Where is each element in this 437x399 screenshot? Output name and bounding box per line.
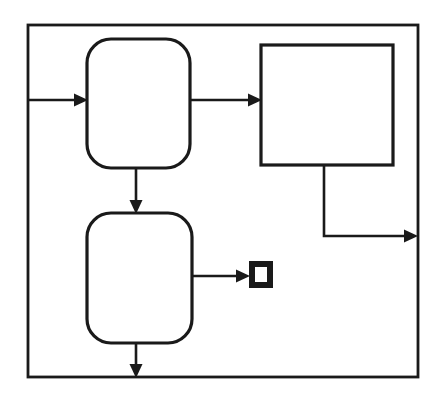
rounded-block-bottom[interactable]: [87, 213, 192, 343]
filled-square-terminator[interactable]: [249, 261, 273, 288]
connector-top-block-to-bottom-block[interactable]: [128, 168, 145, 214]
connector-hit-area[interactable]: [324, 228, 418, 245]
connector-bottom-block-to-output[interactable]: [128, 343, 145, 378]
connector-hit-area[interactable]: [29, 92, 89, 109]
connector-hit-area[interactable]: [192, 268, 250, 285]
diagram-canvas: [0, 0, 437, 399]
connector-line: [324, 165, 408, 236]
connector-right-block-to-output[interactable]: [316, 165, 418, 245]
connector-hit-area[interactable]: [128, 343, 145, 378]
connector-input-to-top-block[interactable]: [29, 92, 89, 109]
connector-top-block-to-right-block[interactable]: [190, 92, 262, 109]
connector-bottom-block-to-terminator[interactable]: [192, 268, 250, 285]
rounded-block-top[interactable]: [87, 39, 190, 168]
connector-hit-area[interactable]: [316, 165, 333, 237]
connector-hit-area[interactable]: [128, 168, 145, 214]
block-diagram-svg: [0, 0, 437, 399]
square-block-right[interactable]: [261, 45, 393, 165]
connector-hit-area[interactable]: [190, 92, 262, 109]
terminator-inner-square: [255, 267, 267, 282]
